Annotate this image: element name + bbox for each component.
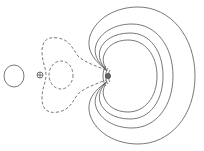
- solid-crescent-contour-1: [89, 7, 195, 144]
- plus-atom-icon: [37, 72, 43, 78]
- dashed-outer-contour: [42, 38, 106, 113]
- dashed-inner-contour: [49, 61, 73, 89]
- solid-crescent-contour-4: [103, 40, 157, 112]
- contour-diagram: [0, 0, 204, 151]
- left-solid-lobe-contour: [4, 65, 24, 87]
- nucleus-icon: [105, 73, 110, 78]
- contour-plot-canvas: [0, 0, 204, 151]
